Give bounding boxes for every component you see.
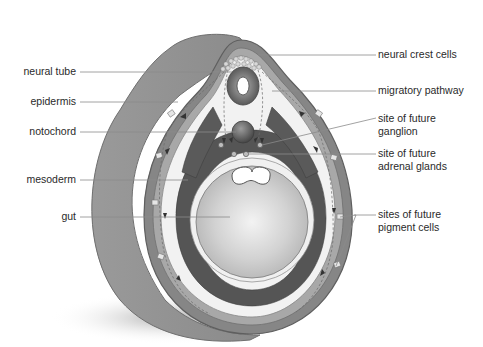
label-mesoderm: mesoderm <box>26 173 76 186</box>
label-site-future-ganglion: site of future ganglion <box>378 112 436 138</box>
label-neural-crest-cells: neural crest cells <box>378 48 457 61</box>
label-pigment-line1: sites of future <box>378 208 441 221</box>
label-migratory-pathway-text: migratory pathway <box>378 84 464 96</box>
label-gut: gut <box>61 210 76 223</box>
label-ganglion-line2: ganglion <box>378 125 436 138</box>
label-neural-crest-cells-text: neural crest cells <box>378 48 457 60</box>
label-neural-tube: neural tube <box>23 65 76 78</box>
label-site-future-adrenal: site of future adrenal glands <box>378 147 447 173</box>
neural-tube-lumen <box>237 77 249 95</box>
gut <box>196 166 308 278</box>
label-epidermis: epidermis <box>30 95 76 108</box>
label-ganglion-line1: site of future <box>378 112 436 125</box>
label-adrenal-line2: adrenal glands <box>378 160 447 173</box>
label-adrenal-line1: site of future <box>378 147 447 160</box>
label-notochord: notochord <box>29 125 76 138</box>
label-pigment-line2: pigment cells <box>378 221 441 234</box>
label-migratory-pathway: migratory pathway <box>378 84 464 97</box>
label-sites-future-pigment: sites of future pigment cells <box>378 208 441 234</box>
